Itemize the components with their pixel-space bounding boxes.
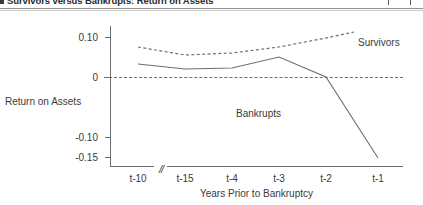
header-title: Survivors versus Bankrupts: Return on As… xyxy=(7,0,213,6)
series-label-survivors: Survivors xyxy=(358,37,400,48)
x-tick-label-0: t-10 xyxy=(129,173,146,184)
plot-area: 0.10 0 -0.10 -0.15 Survivors Bankrupts t… xyxy=(110,26,403,167)
x-tick-label-4: t-2 xyxy=(320,173,332,184)
y-tick-label-3: -0.15 xyxy=(75,152,98,163)
y-tick-label-1: 0 xyxy=(92,72,98,83)
header-tick-mark-2 xyxy=(410,0,411,5)
header-divider xyxy=(0,8,423,9)
y-tick-label-0: 0.10 xyxy=(79,32,98,43)
x-axis-title: Years Prior to Bankruptcy xyxy=(110,188,403,199)
axis-break-symbol: // xyxy=(159,163,163,175)
x-tick-label-1: t-15 xyxy=(176,173,193,184)
chart-figure: Survivors versus Bankrupts: Return on As… xyxy=(0,0,423,205)
x-tick-label-5: t-1 xyxy=(372,173,384,184)
header-divider-secondary xyxy=(0,10,423,11)
black-square-bullet-icon xyxy=(0,0,4,4)
header-tick-mark-1 xyxy=(388,0,389,5)
y-axis-title: Return on Assets xyxy=(5,96,81,107)
x-tick-label-3: t-3 xyxy=(273,173,285,184)
y-tick-label-2: -0.10 xyxy=(75,132,98,143)
x-tick-label-2: t-4 xyxy=(226,173,238,184)
series-label-bankrupts: Bankrupts xyxy=(236,108,281,119)
